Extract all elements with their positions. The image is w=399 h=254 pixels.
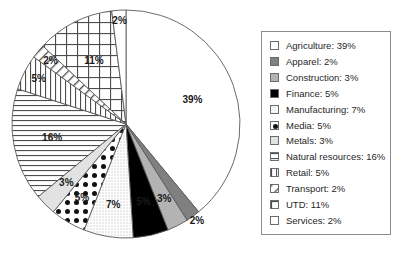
chart-legend: Agriculture: 39%Apparel: 2%Construction:… bbox=[261, 31, 391, 235]
legend-label-text: Transport: 2% bbox=[286, 183, 345, 194]
legend-label-text: Manufacturing: 7% bbox=[286, 104, 365, 115]
legend-label-text: Apparel: 2% bbox=[286, 56, 338, 67]
legend-label-text: Services: 2% bbox=[286, 215, 341, 226]
pie-slice-label-transport: 2% bbox=[43, 55, 58, 66]
legend-label-text: UTD: 11% bbox=[286, 199, 329, 210]
legend-item-metals[interactable]: Metals: 3% bbox=[262, 133, 390, 149]
legend-item-transport[interactable]: Transport: 2% bbox=[262, 180, 390, 196]
pie-chart-plot-area: 39%2%3%5%7%5%3%16%5%2%11%2% bbox=[0, 0, 252, 254]
legend-item-finance[interactable]: Finance: 5% bbox=[262, 85, 390, 101]
legend-swatch-apparel bbox=[270, 57, 279, 66]
legend-swatch-manufacturing bbox=[270, 105, 279, 114]
legend-item-retail[interactable]: Retail: 5% bbox=[262, 165, 390, 181]
pie-slice-label-utd: 11% bbox=[84, 55, 104, 66]
legend-label-text: Natural resources: 16% bbox=[286, 151, 385, 162]
pie-chart-figure: 39%2%3%5%7%5%3%16%5%2%11%2% Agriculture:… bbox=[0, 0, 399, 254]
legend-swatch-construction bbox=[270, 73, 279, 82]
pie-slice-label-agriculture: 39% bbox=[182, 94, 202, 105]
pie-slice-label-services: 2% bbox=[112, 15, 127, 26]
pie-slices-group bbox=[12, 10, 240, 238]
legend-swatch-utd bbox=[270, 200, 279, 209]
legend-item-agriculture[interactable]: Agriculture: 39% bbox=[262, 38, 390, 54]
legend-swatch-natural-resources bbox=[270, 152, 279, 161]
pie-slice-label-apparel: 2% bbox=[190, 215, 205, 226]
pie-slice-label-finance: 5% bbox=[136, 196, 151, 207]
legend-item-natural-resources[interactable]: Natural resources: 16% bbox=[262, 149, 390, 165]
legend-swatch-media bbox=[270, 121, 279, 130]
legend-label-text: Media: 5% bbox=[286, 120, 331, 131]
legend-label-text: Construction: 3% bbox=[286, 72, 358, 83]
legend-label-text: Finance: 5% bbox=[286, 88, 339, 99]
legend-swatch-metals bbox=[270, 136, 279, 145]
legend-swatch-agriculture bbox=[270, 41, 279, 50]
pie-slice-label-natural-resources: 16% bbox=[42, 132, 62, 143]
legend-item-construction[interactable]: Construction: 3% bbox=[262, 70, 390, 86]
legend-item-media[interactable]: Media: 5% bbox=[262, 117, 390, 133]
pie-slice-label-media: 5% bbox=[75, 192, 90, 203]
legend-swatch-transport bbox=[270, 184, 279, 193]
pie-slice-label-manufacturing: 7% bbox=[106, 199, 121, 210]
legend-item-services[interactable]: Services: 2% bbox=[262, 212, 390, 228]
legend-swatch-services bbox=[270, 216, 279, 225]
legend-item-utd[interactable]: UTD: 11% bbox=[262, 196, 390, 212]
legend-item-apparel[interactable]: Apparel: 2% bbox=[262, 54, 390, 70]
pie-slice-label-retail: 5% bbox=[31, 73, 46, 84]
pie-slice-label-construction: 3% bbox=[157, 193, 172, 204]
legend-swatch-finance bbox=[270, 89, 279, 98]
pie-slice-label-metals: 3% bbox=[59, 177, 74, 188]
legend-item-list: Agriculture: 39%Apparel: 2%Construction:… bbox=[262, 38, 390, 228]
legend-label-text: Retail: 5% bbox=[286, 167, 329, 178]
pie-chart-svg: 39%2%3%5%7%5%3%16%5%2%11%2% bbox=[0, 0, 252, 254]
legend-item-manufacturing[interactable]: Manufacturing: 7% bbox=[262, 101, 390, 117]
legend-label-text: Metals: 3% bbox=[286, 135, 333, 146]
legend-label-text: Agriculture: 39% bbox=[286, 40, 356, 51]
legend-swatch-retail bbox=[270, 168, 279, 177]
